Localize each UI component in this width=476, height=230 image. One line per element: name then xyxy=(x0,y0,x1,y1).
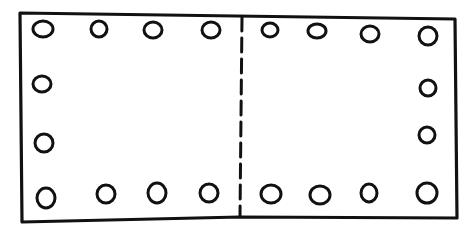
hole-top-7 xyxy=(361,26,379,42)
hole-bottom-1 xyxy=(37,188,55,208)
diagram-canvas xyxy=(0,0,476,230)
hole-bottom-3 xyxy=(148,183,166,203)
hole-top-5 xyxy=(262,23,278,37)
hole-bottom-6 xyxy=(310,186,330,204)
hole-bottom-7 xyxy=(361,184,377,202)
hole-right-1 xyxy=(420,80,436,96)
hole-right-2 xyxy=(419,127,435,143)
hole-left-1 xyxy=(33,76,51,92)
hole-bottom-2 xyxy=(97,185,115,203)
hole-bottom-4 xyxy=(200,184,218,202)
hole-top-6 xyxy=(308,24,326,38)
sheet-diagram xyxy=(0,0,476,230)
fold-line xyxy=(240,17,242,216)
hole-top-2 xyxy=(91,21,107,37)
hole-bottom-8 xyxy=(417,183,437,203)
hole-bottom-5 xyxy=(261,185,281,203)
hole-left-2 xyxy=(35,134,53,152)
hole-top-8 xyxy=(419,27,437,45)
grommet-holes xyxy=(33,21,437,208)
hole-top-3 xyxy=(144,22,162,38)
hole-top-1 xyxy=(33,21,53,37)
hole-top-4 xyxy=(202,22,220,38)
sheet-outline xyxy=(20,13,457,222)
